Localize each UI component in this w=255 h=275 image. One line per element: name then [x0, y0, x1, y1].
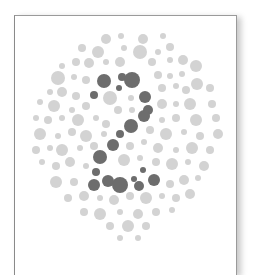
background-dot: [167, 57, 173, 63]
background-dot: [178, 55, 188, 65]
figure-dot: [116, 85, 122, 91]
background-dot: [117, 235, 123, 241]
background-dot: [160, 33, 166, 39]
background-dot: [77, 145, 83, 151]
background-dot: [179, 71, 185, 77]
background-dot: [141, 139, 147, 145]
background-dot: [181, 129, 187, 135]
figure-dot: [138, 110, 150, 122]
background-dot: [101, 131, 107, 137]
background-dot: [195, 175, 201, 181]
background-dot: [155, 49, 161, 55]
background-dot: [34, 128, 46, 140]
background-dot: [92, 46, 104, 58]
background-dot: [32, 146, 40, 154]
background-dot: [158, 84, 166, 92]
background-dot: [52, 162, 60, 170]
background-dot: [152, 208, 160, 216]
background-dot: [71, 74, 77, 80]
background-dot: [133, 209, 143, 219]
background-dot: [172, 114, 180, 122]
background-dot: [72, 92, 80, 100]
background-dot: [65, 157, 75, 167]
background-dot: [118, 33, 124, 39]
figure-dot: [88, 179, 100, 191]
background-dot: [199, 161, 209, 171]
background-dot: [37, 99, 43, 105]
background-dot: [59, 63, 65, 69]
figure-dot: [107, 139, 119, 151]
background-dot: [126, 142, 134, 150]
background-dot: [55, 133, 61, 139]
background-dot: [129, 107, 135, 113]
background-dot: [152, 158, 160, 166]
figure-dot: [124, 72, 140, 88]
background-dot: [160, 128, 172, 140]
background-dot: [213, 129, 223, 139]
background-dot: [68, 128, 76, 136]
background-dot: [114, 106, 122, 114]
background-dot: [206, 84, 214, 92]
background-dots: [32, 33, 223, 241]
background-dot: [182, 86, 190, 94]
background-dot: [126, 192, 134, 200]
background-dot: [83, 163, 89, 169]
background-dot: [97, 195, 103, 201]
background-dot: [121, 45, 127, 51]
background-dot: [72, 114, 84, 126]
background-dot: [90, 142, 98, 150]
background-dot: [186, 142, 198, 154]
background-dot: [51, 71, 65, 85]
background-dot: [212, 114, 220, 122]
background-dot: [153, 143, 163, 153]
figure-dot: [93, 150, 107, 164]
background-dot: [117, 209, 123, 215]
background-dot: [72, 58, 80, 66]
background-dot: [33, 115, 39, 121]
background-dot: [78, 44, 86, 52]
background-dot: [50, 176, 62, 188]
background-dot: [179, 175, 189, 185]
background-dot: [48, 100, 60, 112]
background-dot: [128, 95, 134, 101]
background-dot: [56, 144, 68, 156]
background-dot: [115, 57, 125, 67]
background-dot: [157, 99, 167, 109]
background-dot: [70, 178, 78, 186]
background-dot: [167, 73, 173, 79]
background-dot: [173, 83, 179, 89]
background-dot: [79, 191, 89, 201]
background-dot: [185, 189, 195, 199]
figure-dot: [134, 181, 144, 191]
background-dot: [80, 130, 92, 142]
background-dot: [82, 102, 90, 110]
figure-dot: [139, 91, 151, 103]
background-dot: [154, 71, 162, 79]
background-dot: [59, 115, 65, 121]
figure-dot: [90, 91, 98, 99]
background-dot: [57, 87, 67, 97]
figure-dot: [92, 168, 100, 176]
background-dot: [109, 195, 119, 205]
background-dot: [82, 76, 90, 84]
background-dot: [47, 145, 53, 151]
background-dot: [191, 78, 203, 90]
background-dot: [135, 235, 141, 241]
background-dot: [142, 222, 150, 230]
background-dot: [173, 147, 179, 153]
background-dot: [196, 132, 204, 140]
background-dot: [64, 194, 72, 202]
background-dot: [185, 159, 191, 165]
background-dot: [138, 34, 148, 44]
background-dot: [102, 120, 110, 128]
figure-dot: [97, 74, 111, 88]
background-dot: [118, 154, 130, 166]
figure-dot: [124, 119, 138, 133]
figure-dot: [112, 177, 128, 193]
background-dot: [206, 146, 214, 154]
background-dot: [94, 208, 106, 220]
background-dot: [184, 98, 196, 110]
background-dot: [166, 43, 174, 51]
background-dot: [84, 58, 94, 68]
background-dot: [140, 192, 152, 204]
